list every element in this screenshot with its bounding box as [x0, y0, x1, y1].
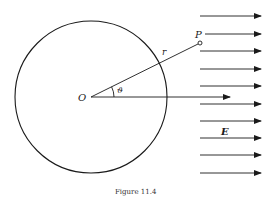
point-label: P — [194, 29, 202, 40]
radius-label: r — [162, 47, 167, 57]
angle-label: ϑ — [117, 86, 123, 95]
figure-diagram: O P r ϑ E Figure 11.4 — [0, 0, 271, 200]
field-label: E — [220, 126, 229, 137]
figure-caption: Figure 11.4 — [115, 188, 157, 196]
radius-line — [91, 44, 198, 97]
angle-arc — [112, 87, 114, 97]
field-arrows — [200, 16, 261, 173]
point-p-marker — [198, 41, 202, 45]
origin-label: O — [78, 92, 86, 103]
